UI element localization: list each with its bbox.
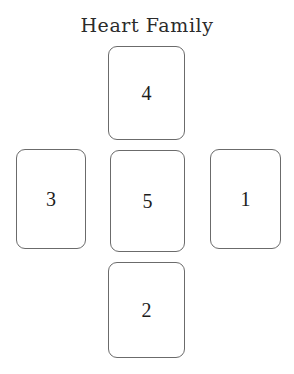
spread-card-position-2[interactable]: 2 bbox=[108, 262, 185, 358]
card-position-number: 2 bbox=[142, 300, 152, 320]
spread-card-position-5[interactable]: 5 bbox=[110, 150, 185, 252]
card-position-number: 4 bbox=[142, 83, 152, 103]
page-title: Heart Family bbox=[0, 14, 294, 36]
card-spread-canvas: Heart Family 4 3 5 1 2 bbox=[0, 0, 294, 374]
card-position-number: 3 bbox=[46, 189, 56, 209]
spread-card-position-3[interactable]: 3 bbox=[16, 149, 86, 249]
spread-card-position-4[interactable]: 4 bbox=[108, 46, 185, 140]
card-position-number: 1 bbox=[241, 189, 251, 209]
card-position-number: 5 bbox=[143, 191, 153, 211]
spread-card-position-1[interactable]: 1 bbox=[210, 149, 281, 249]
